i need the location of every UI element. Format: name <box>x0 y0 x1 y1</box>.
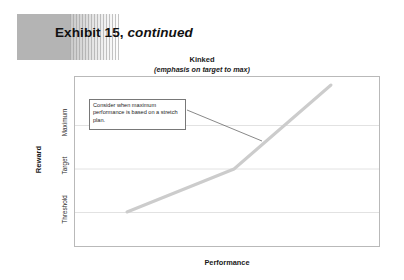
exhibit-heading: Exhibit 15, continued <box>55 25 193 40</box>
y-tick-label-target: Target <box>61 144 68 188</box>
chart-title: Kinked <box>0 55 404 64</box>
y-tick-label-maximum: Maximum <box>61 101 68 145</box>
exhibit-heading-continued: continued <box>127 25 192 40</box>
exhibit-heading-main: Exhibit 15, <box>55 25 124 40</box>
annotation-callout-text: Consider when maximum performance is bas… <box>93 102 182 124</box>
annotation-callout: Consider when maximum performance is bas… <box>89 99 186 130</box>
y-tick-label-threshold: Threshold <box>61 188 68 232</box>
exhibit-page: Exhibit 15, continued Kinked (emphasis o… <box>0 0 404 280</box>
x-axis-title: Performance <box>74 258 380 267</box>
chart-subtitle: (emphasis on target to max) <box>0 65 404 74</box>
y-axis-title: Reward <box>34 130 43 190</box>
